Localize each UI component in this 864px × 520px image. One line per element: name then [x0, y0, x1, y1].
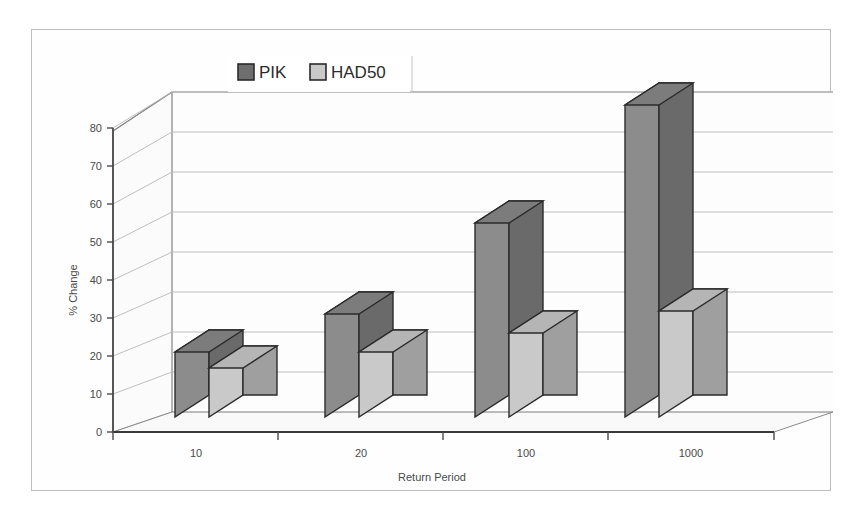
x-axis: [113, 432, 774, 440]
x-tick-label: 10: [190, 447, 202, 459]
chart-floor: [113, 412, 833, 432]
chart-figure: 80 70 60 50 40 30 20 10 0 % Change: [0, 0, 864, 520]
legend-item-pik[interactable]: PIK: [238, 63, 287, 82]
y-tick-labels: 80 70 60 50 40 30 20 10 0: [90, 122, 102, 438]
y-tick-label: 60: [90, 198, 102, 210]
y-axis: [107, 128, 113, 432]
y-tick-label: 80: [90, 122, 102, 134]
y-tick-label: 10: [90, 388, 102, 400]
legend-label-pik: PIK: [259, 63, 287, 82]
y-tick-label: 0: [96, 426, 102, 438]
y-axis-title: % Change: [67, 264, 79, 315]
y-tick-label: 20: [90, 350, 102, 362]
legend-swatch-had50: [310, 64, 326, 80]
y-tick-label: 30: [90, 312, 102, 324]
x-axis-title: Return Period: [398, 471, 466, 483]
legend-label-had50: HAD50: [331, 63, 386, 82]
x-tick-label: 100: [517, 447, 535, 459]
bar-chart-3d: 80 70 60 50 40 30 20 10 0 % Change: [0, 0, 864, 520]
y-tick-label: 70: [90, 160, 102, 172]
x-tick-labels: 10 20 100 1000: [190, 447, 703, 459]
y-tick-label: 40: [90, 274, 102, 286]
legend-swatch-pik: [238, 64, 254, 80]
x-tick-label: 1000: [679, 447, 703, 459]
chart-legend: PIK HAD50: [228, 55, 412, 92]
y-tick-label: 50: [90, 236, 102, 248]
legend-item-had50[interactable]: HAD50: [310, 63, 386, 82]
x-tick-label: 20: [355, 447, 367, 459]
